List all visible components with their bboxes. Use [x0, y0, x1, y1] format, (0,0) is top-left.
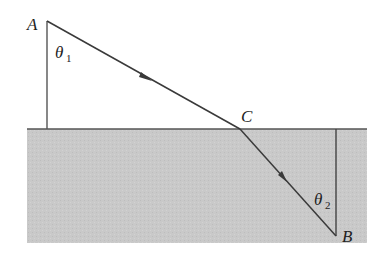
label-a: A: [26, 15, 38, 34]
refraction-diagram: A C B θ 1 θ 2: [0, 0, 381, 254]
label-theta2-subscript: 2: [325, 199, 331, 211]
label-theta1-subscript: 1: [66, 52, 72, 64]
label-theta1: θ: [55, 43, 63, 62]
lower-medium: [27, 129, 367, 243]
label-theta2: θ: [314, 190, 322, 209]
label-b: B: [342, 227, 353, 246]
label-c: C: [241, 107, 253, 126]
arrow-icon-incident: [139, 72, 152, 81]
